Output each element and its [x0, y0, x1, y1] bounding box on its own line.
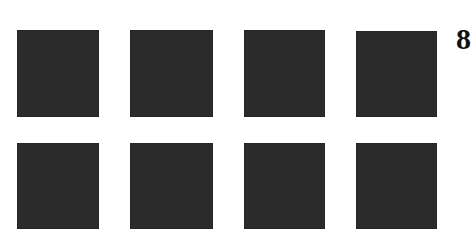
square-r1-c2: [130, 30, 213, 117]
count-label: 8: [456, 24, 471, 54]
square-r2-c1: [17, 143, 99, 229]
square-r2-c3: [244, 143, 325, 229]
square-r1-c3: [244, 30, 325, 117]
square-r2-c2: [130, 143, 213, 229]
square-r1-c1: [17, 30, 99, 117]
square-r2-c4: [356, 143, 437, 229]
square-r1-c4: [356, 31, 437, 117]
